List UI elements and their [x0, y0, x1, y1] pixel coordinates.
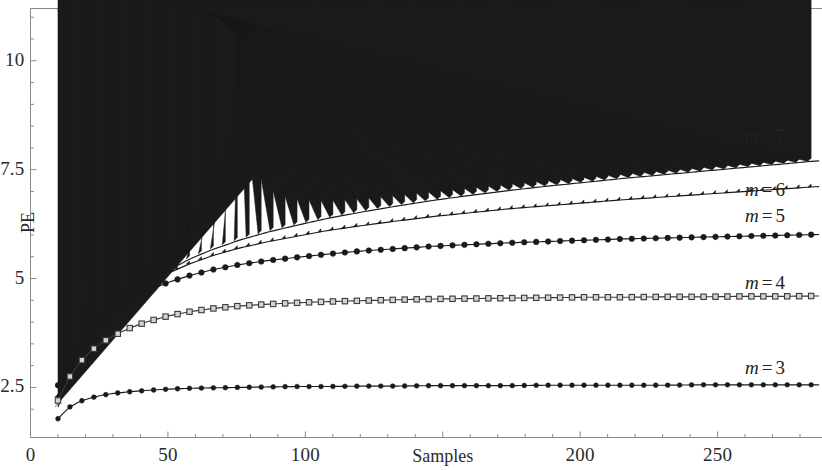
- series-label-symbol: m: [745, 272, 759, 293]
- series-label-m-5: m=5: [745, 205, 785, 227]
- x-tick-label-100: 100: [265, 444, 345, 466]
- series-label-symbol: m: [745, 205, 759, 226]
- x-axis-title: Samples: [401, 446, 485, 467]
- series-label-m-7: m=7: [745, 125, 785, 147]
- series-label-m-4: m=4: [745, 272, 785, 294]
- series-label-symbol: m: [745, 357, 759, 378]
- x-tick-label-250: 250: [678, 444, 758, 466]
- y-axis-title: PE: [18, 212, 39, 233]
- x-tick-label-200: 200: [540, 444, 620, 466]
- series-label-equals: =: [759, 205, 776, 226]
- y-tick-label-10: 10: [5, 49, 24, 71]
- x-tick-label-0: 0: [0, 444, 71, 466]
- series-label-value: 7: [775, 125, 785, 146]
- series-label-m-6: m=6: [745, 179, 785, 201]
- series-label-value: 5: [775, 205, 785, 226]
- series-label-value: 4: [775, 272, 785, 293]
- series-label-equals: =: [759, 272, 776, 293]
- series-label-symbol: m: [745, 179, 759, 200]
- series-label-value: 3: [775, 357, 785, 378]
- y-tick-label-5: 5: [15, 267, 25, 289]
- y-tick-label-7.5: 7.5: [0, 158, 24, 180]
- series-label-value: 6: [775, 179, 785, 200]
- series-label-equals: =: [759, 357, 776, 378]
- x-tick-label-50: 50: [128, 444, 208, 466]
- series-label-m-3: m=3: [745, 357, 785, 379]
- series-label-equals: =: [759, 179, 776, 200]
- series-label-equals: =: [759, 125, 776, 146]
- series-label-symbol: m: [745, 125, 759, 146]
- chart-plot-area: [0, 0, 822, 471]
- y-tick-label-2.5: 2.5: [0, 375, 24, 397]
- chart-figure: 2.557.510 050100200250 PE Samples m=7m=6…: [0, 0, 822, 471]
